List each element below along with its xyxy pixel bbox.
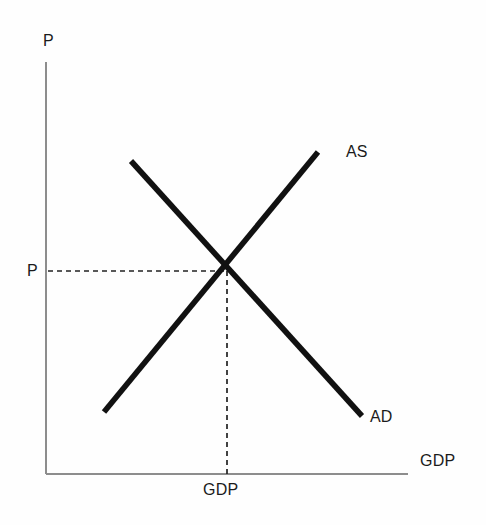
gdp-axis-label: GDP <box>420 453 455 469</box>
equilibrium-gdp-label: GDP <box>203 482 238 498</box>
ad-curve-label: AD <box>370 409 393 425</box>
ad-curve <box>131 161 362 416</box>
as-curve-label: AS <box>346 144 368 160</box>
equilibrium-price-label: P <box>27 263 38 279</box>
price-axis-label: P <box>43 33 54 49</box>
ad-as-diagram-canvas: P P AS AD GDP GDP <box>0 0 486 525</box>
diagram-svg <box>0 0 486 525</box>
as-curve <box>104 152 318 412</box>
